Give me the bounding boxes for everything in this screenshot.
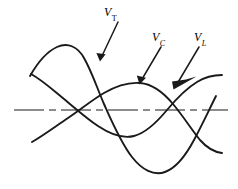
ac-waveform-figure: VT VC VL [0, 0, 238, 189]
label-vl-subscript: L [202, 39, 206, 48]
label-vl-symbol: V [194, 30, 201, 44]
arrow-vt [96, 22, 118, 62]
label-vc-subscript: C [160, 39, 165, 48]
label-vt-subscript: T [112, 14, 117, 23]
label-vc: VC [152, 31, 165, 46]
label-vt: VT [104, 6, 116, 21]
label-vc-symbol: V [152, 30, 159, 44]
arrow-vc [137, 47, 161, 85]
label-vt-symbol: V [104, 5, 111, 19]
waveform-plot [0, 0, 238, 189]
label-vl: VL [194, 31, 206, 46]
